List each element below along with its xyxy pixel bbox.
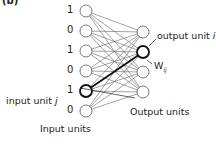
output-unit-label: output unit i <box>157 31 215 41</box>
connection-edge <box>86 32 143 51</box>
input-node <box>80 65 92 77</box>
input-unit-label: input unit j <box>6 96 58 106</box>
input-node <box>80 105 92 117</box>
output-node <box>137 46 149 58</box>
connection-edge <box>86 32 143 91</box>
connection-edge <box>86 52 143 111</box>
input-node <box>80 45 92 57</box>
output-node <box>137 66 149 78</box>
input-value: 1 <box>67 45 73 55</box>
output-node <box>137 26 149 38</box>
network-svg <box>0 0 216 144</box>
weight-pointer-line <box>147 60 152 64</box>
input-value: 0 <box>67 65 73 75</box>
output-pointer-line <box>149 39 156 46</box>
input-node <box>80 5 92 17</box>
input-value: 1 <box>67 85 73 95</box>
input-value: 0 <box>67 105 73 115</box>
connection-edge <box>86 32 143 71</box>
connection-edge <box>86 11 143 32</box>
weight-label: Wij <box>154 61 167 73</box>
input-node <box>80 25 92 37</box>
input-value: 1 <box>67 5 73 15</box>
input-units-caption: Input units <box>40 124 91 134</box>
input-value: 0 <box>67 25 73 35</box>
input-node <box>80 85 92 97</box>
output-node <box>137 86 149 98</box>
highlight-weight-edge <box>86 52 143 91</box>
output-units-caption: Output units <box>130 107 189 117</box>
